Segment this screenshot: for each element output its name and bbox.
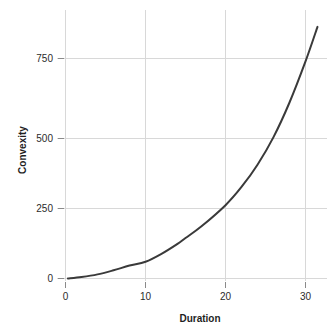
y-tick-label-250: 250 bbox=[36, 203, 53, 214]
convexity-duration-line-chart: 0 250 500 750 0 10 20 30 Duration Convex… bbox=[0, 0, 335, 335]
chart-background bbox=[0, 0, 335, 335]
y-tick-label-750: 750 bbox=[36, 53, 53, 64]
y-tick-label-500: 500 bbox=[36, 133, 53, 144]
x-tick-label-0: 0 bbox=[63, 291, 69, 302]
x-tick-label-30: 30 bbox=[300, 291, 312, 302]
y-axis-title: Convexity bbox=[17, 126, 28, 174]
chart-container: 0 250 500 750 0 10 20 30 Duration Convex… bbox=[0, 0, 335, 335]
x-tick-label-20: 20 bbox=[220, 291, 232, 302]
x-axis-title: Duration bbox=[179, 313, 220, 324]
y-tick-label-0: 0 bbox=[47, 273, 53, 284]
x-tick-label-10: 10 bbox=[140, 291, 152, 302]
